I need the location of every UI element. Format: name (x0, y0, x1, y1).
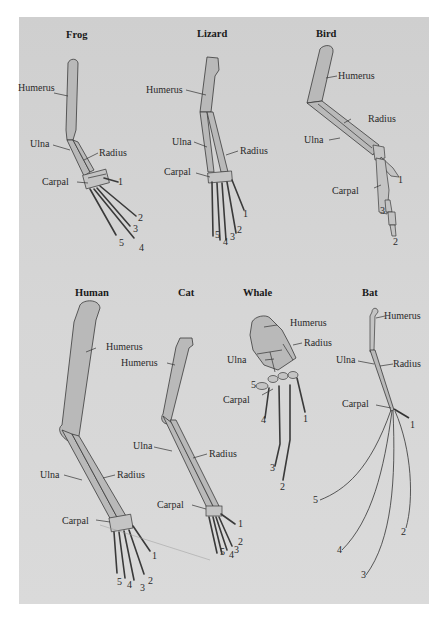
whale-radius-label: Radius (304, 338, 332, 348)
human-digit-1: 1 (152, 551, 157, 561)
cat-ulna-label: Ulna (133, 441, 152, 451)
bird-radius-label: Radius (368, 114, 396, 124)
human-humerus-label: Humerus (106, 342, 143, 352)
whale-carpal-label: Carpal (223, 395, 250, 405)
human-digit-5: 5 (117, 577, 122, 587)
human-title: Human (75, 288, 109, 299)
bat-title: Bat (362, 288, 378, 299)
cat-limb (154, 338, 235, 554)
cat-radius-label: Radius (209, 449, 237, 459)
whale-digit-2: 2 (280, 482, 285, 492)
bat-limb (320, 308, 411, 575)
lizard-title: Lizard (197, 29, 227, 40)
lizard-carpal-label: Carpal (164, 167, 191, 177)
lizard-digit-1: 1 (243, 209, 248, 219)
cat-humerus-label: Humerus (121, 358, 158, 368)
bird-ulna-label: Ulna (304, 135, 323, 145)
bird-title: Bird (316, 29, 336, 40)
human-digit-2: 2 (148, 576, 153, 586)
bat-radius-label: Radius (393, 359, 421, 369)
human-digit-4: 4 (127, 580, 132, 590)
limb-illustrations (0, 0, 446, 622)
bird-digit-3: 3 (380, 206, 385, 216)
cat-digit-3: 3 (234, 545, 239, 555)
bird-carpal-label: Carpal (332, 186, 359, 196)
bat-humerus-label: Humerus (384, 311, 421, 321)
bat-digit-4: 4 (337, 545, 342, 555)
frog-humerus-label: Humerus (18, 83, 55, 93)
cat-digit-4: 4 (229, 550, 234, 560)
bird-humerus-label: Humerus (338, 71, 375, 81)
frog-digit-4: 4 (139, 243, 144, 253)
human-digit-3: 3 (140, 583, 145, 593)
lizard-digit-4: 4 (223, 237, 228, 247)
frog-radius-label: Radius (99, 148, 127, 158)
whale-ulna-label: Ulna (227, 355, 246, 365)
frog-carpal-label: Carpal (42, 177, 69, 187)
frog-digit-2: 2 (138, 213, 143, 223)
lizard-digit-2: 2 (237, 225, 242, 235)
frog-digit-3: 3 (133, 224, 138, 234)
frog-ulna-label: Ulna (30, 139, 49, 149)
lizard-limb (186, 57, 244, 240)
whale-humerus-label: Humerus (290, 318, 327, 328)
cat-title: Cat (178, 288, 194, 299)
frog-digit-5: 5 (119, 238, 124, 248)
lizard-ulna-label: Ulna (172, 137, 191, 147)
whale-digit-4: 4 (261, 415, 266, 425)
frog-digit-1: 1 (118, 177, 123, 187)
bird-digit-1: 1 (398, 175, 403, 185)
whale-title: Whale (243, 288, 272, 299)
cat-digit-1: 1 (238, 519, 243, 529)
whale-limb (250, 316, 305, 480)
lizard-digit-3: 3 (230, 232, 235, 242)
human-radius-label: Radius (117, 470, 145, 480)
bat-carpal-label: Carpal (342, 399, 369, 409)
lizard-radius-label: Radius (240, 146, 268, 156)
bat-digit-2: 2 (401, 527, 406, 537)
whale-digit-5: 5 (251, 380, 256, 390)
bat-digit-1: 1 (410, 420, 415, 430)
bat-ulna-label: Ulna (336, 355, 355, 365)
human-carpal-label: Carpal (62, 516, 89, 526)
frog-title: Frog (66, 30, 87, 41)
lizard-humerus-label: Humerus (146, 85, 183, 95)
bat-digit-3: 3 (361, 570, 366, 580)
whale-digit-3: 3 (270, 463, 275, 473)
cat-digit-5: 5 (220, 547, 225, 557)
bat-digit-5: 5 (313, 495, 318, 505)
cat-carpal-label: Carpal (157, 500, 184, 510)
whale-digit-1: 1 (303, 414, 308, 424)
lizard-digit-5: 5 (215, 230, 220, 240)
bird-digit-2: 2 (393, 237, 398, 247)
human-ulna-label: Ulna (40, 470, 59, 480)
